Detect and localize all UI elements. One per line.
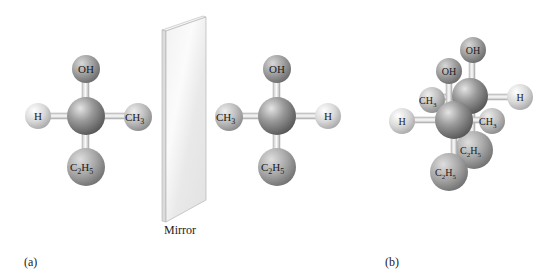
h-label: H: [324, 110, 332, 122]
molecule-right: OH CH3 H C2H5: [215, 55, 341, 186]
bond-icon: [486, 94, 510, 100]
panel-a-label: (a): [24, 255, 37, 270]
mirror-label: Mirror: [164, 223, 196, 238]
oh-label: OH: [78, 63, 94, 75]
front-oh-label: OH: [442, 66, 456, 77]
back-oh-label: OH: [466, 45, 480, 56]
carbon-atom-icon: [67, 97, 105, 135]
molecule-left: OH H CH3 C2H5: [25, 55, 152, 186]
mirror-plane: [162, 16, 206, 222]
carbon-atom-icon: [435, 101, 473, 139]
molecule-overlay: OH H C2H5 CH3 OH CH3 H C2H5: [389, 37, 533, 191]
panel-b-label: (b): [385, 255, 399, 270]
back-h-label: H: [516, 92, 523, 103]
bond-icon: [412, 117, 438, 123]
carbon-atom-icon: [258, 97, 296, 135]
h-label: H: [34, 110, 42, 122]
figure-canvas: OH H CH3 C2H5 OH CH3 H C2H5: [0, 0, 550, 276]
oh-label: OH: [269, 63, 285, 75]
front-h-label: H: [398, 116, 405, 127]
